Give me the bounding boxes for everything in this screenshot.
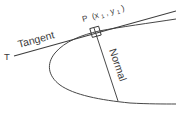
label-point-p-close: ) (121, 4, 126, 13)
label-point-p-open: (x (91, 11, 100, 21)
label-point-p-name: P (81, 14, 89, 24)
label-point-p: P (x 1 , y 1 ) (81, 4, 126, 26)
geometry-figure: T Tangent Normal P (x 1 , y 1 ) (0, 0, 176, 119)
label-point-p-sub-x: 1 (101, 13, 106, 20)
label-point-p-mid: , y (105, 6, 117, 17)
label-point-p-sub-y: 1 (116, 9, 121, 16)
diagram-canvas: T Tangent Normal P (x 1 , y 1 ) (0, 0, 176, 119)
label-tangent: Tangent (16, 28, 55, 50)
label-axis-point-t: T (4, 51, 10, 62)
